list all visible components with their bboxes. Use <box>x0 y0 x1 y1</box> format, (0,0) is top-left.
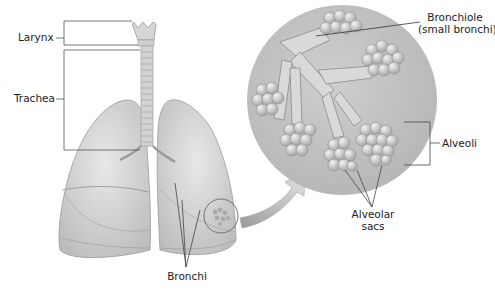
right-lung <box>157 100 236 255</box>
label-alveolar-sacs: Alveolar sacs <box>345 208 401 232</box>
label-alveolar-sacs-line1: Alveolar <box>345 208 401 220</box>
magnified-view <box>247 5 437 195</box>
label-bronchiole-line2: (small bronchi) <box>418 23 492 35</box>
label-bronchiole: Bronchiole (small bronchi) <box>418 11 492 35</box>
larynx-shape <box>132 22 156 46</box>
diagram-artwork <box>0 0 495 294</box>
label-alveolar-sacs-line2: sacs <box>345 220 401 232</box>
larynx-bracket <box>56 21 138 45</box>
label-trachea: Trachea <box>14 92 55 104</box>
label-bronchiole-line1: Bronchiole <box>418 11 492 23</box>
left-lung <box>59 100 151 258</box>
label-larynx: Larynx <box>18 31 54 43</box>
label-alveoli: Alveoli <box>442 137 477 149</box>
respiratory-diagram: Larynx Trachea Bronchi Bronchiole (small… <box>0 0 495 294</box>
label-bronchi: Bronchi <box>165 270 209 282</box>
